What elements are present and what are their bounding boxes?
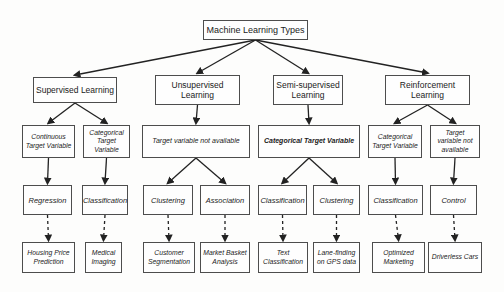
node-categorical-target-variable-supervised: Categorical Target Variable xyxy=(83,125,130,158)
node-medical-imaging: Medical Imaging xyxy=(85,242,122,273)
ml-types-diagram: Machine Learning Types Supervised Learni… xyxy=(0,0,504,292)
node-classification-supervised: Classification xyxy=(82,185,128,215)
edge-regression-housing xyxy=(48,215,49,240)
edge-reinforcement-categorical xyxy=(395,105,428,123)
edge-reinforcement-notarget xyxy=(428,105,456,123)
edge-supervised-categorical xyxy=(75,103,107,123)
node-text-classification: Text Classification xyxy=(258,242,308,273)
edge-root-unsupervised xyxy=(198,40,256,73)
node-optimized-marketing: Optimized Marketing xyxy=(372,242,425,273)
node-regression: Regression xyxy=(23,185,72,215)
node-association: Association xyxy=(200,185,250,215)
edge-classification-text xyxy=(283,215,284,240)
edge-clustering-customer xyxy=(168,215,169,240)
node-control: Control xyxy=(430,185,477,215)
node-classification-reinforcement: Classification xyxy=(368,185,423,215)
edge-supervised-continuous xyxy=(49,103,76,123)
node-unsupervised-learning: Unsupervised Learning xyxy=(155,75,240,105)
node-categorical-target-variable-reinforcement: Categorical Target Variable xyxy=(368,125,422,158)
edge-unsup-association xyxy=(196,158,225,183)
edge-classification-optimized xyxy=(396,215,399,240)
edge-unsupervised-condition xyxy=(196,105,198,123)
node-driverless-cars: Driverless Cars xyxy=(428,242,482,273)
edge-root-supervised xyxy=(75,40,256,75)
edge-semi-condition xyxy=(308,105,309,123)
node-target-variable-not-available-reinforcement: Target variable not available xyxy=(430,125,480,158)
edge-continuous-regression xyxy=(48,158,49,183)
node-categorical-target-variable-semi: Categorical Target Variable xyxy=(258,125,360,158)
edge-semi-classification xyxy=(283,158,310,183)
node-semi-supervised-learning: Semi-supervised Learning xyxy=(273,75,343,105)
node-clustering-semi: Clustering xyxy=(313,185,360,215)
edge-unsup-clustering xyxy=(168,158,196,183)
edge-classification-medical xyxy=(104,215,106,240)
node-lane-finding-gps: Lane-finding on GPS data xyxy=(313,242,360,273)
node-supervised-learning: Supervised Learning xyxy=(33,77,117,103)
edge-reinftv-control xyxy=(454,158,456,183)
node-customer-segmentation: Customer Segmentation xyxy=(143,242,195,273)
node-machine-learning-types: Machine Learning Types xyxy=(203,20,308,40)
node-target-variable-not-available-unsupervised: Target variable not available xyxy=(142,125,250,158)
node-clustering-unsupervised: Clustering xyxy=(143,185,193,215)
node-continuous-target-variable: Continuous Target Variable xyxy=(22,125,75,158)
node-housing-price-prediction: Housing Price Prediction xyxy=(22,242,75,273)
edge-control-driverless xyxy=(454,215,456,240)
node-classification-semi: Classification xyxy=(258,185,307,215)
edge-reinfcat-classification xyxy=(395,158,396,183)
node-reinforcement-learning: Reinforcement Learning xyxy=(385,75,470,105)
node-market-basket-analysis: Market Basket Analysis xyxy=(200,242,250,273)
edge-semi-clustering xyxy=(309,158,337,183)
edge-categorical-classification xyxy=(105,158,107,183)
